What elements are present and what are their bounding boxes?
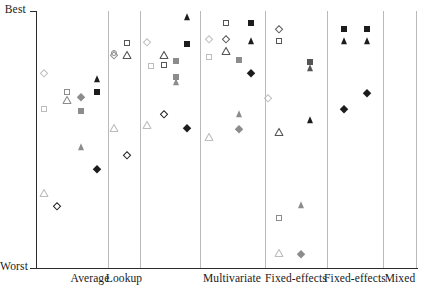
plot-area [37,11,417,268]
x-axis-label-lookup-1: Lookup [64,272,184,284]
data-point-diamond-filled [235,125,243,133]
data-point-triangle-open [160,50,169,59]
data-point-triangle-filled [307,64,313,71]
data-point-triangle-filled [184,14,190,21]
data-point-diamond-open [53,202,61,210]
data-point-triangle-filled [307,116,313,123]
data-point-triangle-filled [94,75,100,82]
data-point-square-filled [236,57,242,63]
data-point-diamond-filled [77,93,85,101]
data-point-diamond-filled [247,69,255,77]
data-point-triangle-open [222,46,231,55]
y-axis-label-worst: Worst [0,260,26,272]
data-point-square-open [161,62,167,68]
data-point-triangle-open [143,121,152,130]
data-point-triangle-filled [341,37,347,44]
data-point-square-open [276,215,282,221]
data-point-diamond-open [40,69,48,77]
data-point-square-open [41,106,47,112]
data-point-diamond-open [275,25,283,33]
panel-divider-5 [327,11,328,268]
data-point-square-filled [341,26,347,32]
data-point-square-filled [94,89,100,95]
data-point-triangle-filled [173,78,179,85]
data-point-triangle-open [274,127,283,136]
y-tick-best [30,11,36,12]
x-axis-line [36,268,418,269]
data-point-square-filled [248,20,254,26]
panel-divider-3 [200,11,201,268]
data-point-diamond-filled [340,105,348,113]
data-point-square-open [276,38,282,44]
data-point-square-filled [173,58,179,64]
data-point-diamond-filled [297,250,305,258]
data-point-diamond-open [143,38,151,46]
data-point-square-open [223,20,229,26]
panel-divider-2 [140,11,141,268]
data-point-square-open [124,40,130,46]
data-point-triangle-open [274,248,283,257]
data-point-diamond-filled [93,165,101,173]
data-point-diamond-open [160,110,168,118]
data-point-square-filled [364,26,370,32]
data-point-triangle-filled [298,201,304,208]
data-point-triangle-open [109,123,118,132]
data-point-triangle-filled [236,110,242,117]
data-point-triangle-filled [78,143,84,150]
data-point-diamond-open [205,35,213,43]
data-point-square-filled [184,41,190,47]
data-point-diamond-filled [183,124,191,132]
data-point-triangle-filled [364,37,370,44]
data-point-triangle-open [62,95,71,104]
data-point-diamond-open [123,151,131,159]
data-point-square-open [206,54,212,60]
panel-divider-6 [383,11,384,268]
data-point-square-open [148,63,154,69]
panel-divider-4 [265,11,266,268]
plot-right-border [416,11,417,268]
data-point-triangle-filled [248,37,254,44]
data-point-diamond-open [222,35,230,43]
data-point-triangle-open [123,51,132,60]
x-axis-label-mixed-5: Mixed [340,272,424,284]
data-point-triangle-open [40,189,49,198]
data-point-triangle-open [205,132,214,141]
data-point-square-filled [78,108,84,114]
data-point-diamond-filled [363,89,371,97]
y-axis-label-best: Best [0,3,26,15]
panel-divider-1 [108,11,109,268]
chart-figure: Best Worst AverageLookupMultivariateFixe… [0,0,424,293]
y-tick-worst [30,268,36,269]
